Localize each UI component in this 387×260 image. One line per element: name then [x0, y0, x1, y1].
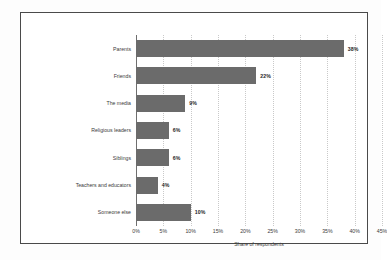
- x-tick-label: 40%: [349, 228, 359, 234]
- category-label: Parents: [113, 46, 131, 52]
- x-tick-label: 10%: [185, 228, 195, 234]
- bar: [136, 149, 169, 166]
- bar: [136, 67, 256, 84]
- bar-row: Parents38%: [136, 35, 382, 62]
- bar: [136, 122, 169, 139]
- gridline: [382, 35, 384, 226]
- bar: [136, 177, 158, 194]
- category-label: The media: [106, 100, 131, 106]
- bar-value-label: 6%: [173, 127, 181, 133]
- bar-value-label: 6%: [173, 155, 181, 161]
- x-tick-label: 5%: [160, 228, 168, 234]
- x-tick-label: 35%: [322, 228, 332, 234]
- category-label: Friends: [114, 73, 131, 79]
- bar-row: The media9%: [136, 90, 382, 117]
- category-label: Siblings: [113, 155, 131, 161]
- bar: [136, 40, 344, 57]
- x-tick-label: 15%: [213, 228, 223, 234]
- x-tick-label: 0%: [132, 228, 140, 234]
- plot-area: Parents38%Friends22%The media9%Religious…: [136, 35, 382, 226]
- figure-frame: Parents38%Friends22%The media9%Religious…: [20, 12, 368, 244]
- bar: [136, 204, 191, 221]
- category-label: Someone else: [98, 209, 131, 215]
- bar-value-label: 10%: [195, 209, 206, 215]
- bar-row: Teachers and educators4%: [136, 171, 382, 198]
- x-axis-tick-labels: 0%5%10%15%20%25%30%35%40%45%: [136, 228, 382, 238]
- bar-value-label: 38%: [348, 46, 359, 52]
- bar-row: Someone else10%: [136, 199, 382, 226]
- x-tick-label: 45%: [377, 228, 387, 234]
- bar-row: Religious leaders6%: [136, 117, 382, 144]
- bar-row: Siblings6%: [136, 144, 382, 171]
- category-label: Religious leaders: [91, 127, 131, 133]
- category-label: Teachers and educators: [76, 182, 131, 188]
- x-tick-label: 20%: [240, 228, 250, 234]
- x-tick-label: 30%: [295, 228, 305, 234]
- bar-value-label: 4%: [162, 182, 170, 188]
- bar-row: Friends22%: [136, 62, 382, 89]
- x-axis-title: Share of respondents: [136, 241, 382, 247]
- bar-series: Parents38%Friends22%The media9%Religious…: [136, 35, 382, 226]
- bar-value-label: 22%: [260, 73, 271, 79]
- bar: [136, 95, 185, 112]
- bar-value-label: 9%: [189, 100, 197, 106]
- x-tick-label: 25%: [267, 228, 277, 234]
